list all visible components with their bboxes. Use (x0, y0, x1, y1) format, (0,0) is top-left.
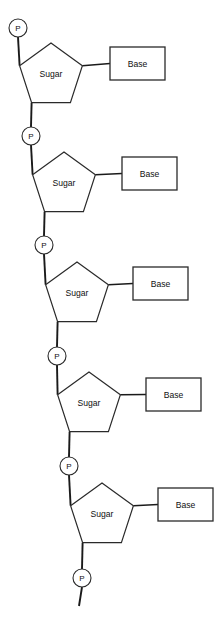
phosphate-group-4: P (48, 347, 66, 365)
base-label-4: Base (164, 390, 184, 400)
base-label-2: Base (140, 169, 160, 179)
phosphate-group-6: P (73, 569, 91, 587)
backbone-segment-sugar-to-phosphate-2 (44, 212, 45, 236)
base-label-1: Base (128, 59, 148, 69)
phosphate-group-2: P (22, 127, 40, 145)
sugar-group-1: Sugar (20, 43, 83, 103)
phosphate-label-6: P (79, 574, 84, 583)
sugar-group-2: Sugar (33, 152, 96, 212)
sugar-group-5: Sugar (71, 483, 134, 543)
backbone-segment-sugar-to-phosphate-1 (31, 103, 32, 127)
backbone-segment-phosphate-to-sugar-1 (18, 37, 20, 66)
glycosidic-bond-1 (82, 64, 110, 66)
base-group-3: Base (133, 267, 188, 300)
sugar-label-2: Sugar (53, 178, 76, 188)
sugar-label-1: Sugar (40, 69, 63, 79)
base-group-4: Base (146, 378, 201, 411)
base-group-1: Base (110, 47, 165, 80)
phosphate-group-3: P (35, 236, 53, 254)
phosphate-label-2: P (28, 132, 33, 141)
sugar-group-4: Sugar (58, 372, 121, 432)
base-label-5: Base (176, 500, 196, 510)
backbone-segment-sugar-to-phosphate-4 (69, 432, 70, 457)
sugar-label-5: Sugar (91, 509, 114, 519)
backbone-segment-sugar-to-phosphate-3 (57, 322, 58, 347)
diagram-canvas: BaseBaseBaseBaseBase SugarSugarSugarSuga… (0, 0, 222, 620)
sugar-label-4: Sugar (78, 398, 101, 408)
backbone-segment-phosphate-to-sugar-2 (31, 145, 33, 175)
base-group-5: Base (158, 488, 213, 521)
base-label-3: Base (151, 279, 171, 289)
glycosidic-bond-2 (95, 174, 122, 175)
base-group-2: Base (122, 157, 177, 190)
backbone-segment-phosphate-to-sugar-5 (69, 475, 71, 506)
nucleotide-chain-diagram: BaseBaseBaseBaseBase SugarSugarSugarSuga… (0, 0, 222, 620)
sugar-group-3: Sugar (46, 262, 109, 322)
phosphate-label-1: P (15, 24, 20, 33)
phosphate-group-1: P (9, 19, 27, 37)
backbone-segment-phosphate-to-sugar-4 (57, 365, 58, 395)
chain-tail (79, 587, 82, 606)
phosphate-group-5: P (60, 457, 78, 475)
phosphate-label-4: P (54, 352, 59, 361)
backbone-segment-sugar-to-phosphate-5 (82, 543, 83, 569)
glycosidic-bond-5 (133, 505, 158, 506)
glycosidic-bond-3 (108, 284, 133, 285)
backbone-segment-phosphate-to-sugar-3 (44, 254, 46, 285)
phosphate-label-5: P (66, 462, 71, 471)
sugar-label-3: Sugar (66, 288, 89, 298)
phosphate-label-3: P (41, 241, 46, 250)
